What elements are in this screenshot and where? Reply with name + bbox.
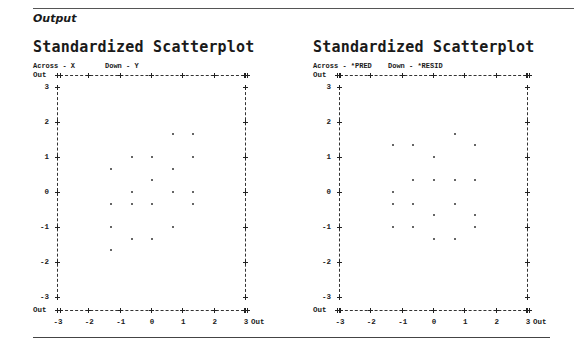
data-point [392, 226, 394, 228]
y-tick-label: 1 [313, 153, 331, 161]
x-tick-mark [462, 73, 467, 78]
data-point [433, 156, 435, 158]
x-tick-label: 0 [428, 318, 440, 326]
data-point [474, 179, 476, 181]
y-tick-label: -3 [313, 293, 331, 301]
data-point [474, 144, 476, 146]
data-point [433, 179, 435, 181]
x-tick-mark [400, 73, 405, 78]
y-tick-mark [337, 120, 342, 125]
out-label-top: Out [313, 71, 327, 79]
x-tick-mark [337, 308, 342, 313]
y-tick-mark [525, 225, 530, 230]
data-point [392, 191, 394, 193]
y-tick-label: -1 [313, 223, 331, 231]
y-tick-mark [525, 260, 530, 265]
data-point [474, 214, 476, 216]
scatterplot-pred-resid: Standardized Scatterplot Across - *PRED … [0, 0, 287, 342]
x-tick-label: -2 [365, 318, 377, 326]
x-tick-mark [431, 73, 436, 78]
x-tick-mark [431, 308, 436, 313]
y-tick-mark [525, 85, 530, 90]
data-point [454, 238, 456, 240]
y-tick-mark [337, 155, 342, 160]
x-tick-label: 2 [491, 318, 503, 326]
x-tick-label: 1 [459, 318, 471, 326]
y-tick-label: -2 [313, 258, 331, 266]
data-point [412, 203, 414, 205]
x-tick-mark [494, 308, 499, 313]
across-label: Across - *PRED [313, 62, 372, 70]
x-tick-label: -1 [397, 318, 409, 326]
x-tick-label: 3 [522, 318, 534, 326]
y-tick-label: 0 [313, 188, 331, 196]
y-tick-mark [525, 295, 530, 300]
y-tick-mark [525, 155, 530, 160]
y-tick-label: 2 [313, 118, 331, 126]
data-point [433, 238, 435, 240]
data-point [454, 179, 456, 181]
data-point [454, 203, 456, 205]
chart-title: Standardized Scatterplot [313, 38, 535, 56]
data-point [412, 226, 414, 228]
data-point [392, 203, 394, 205]
out-label-bottom: Out [313, 306, 327, 314]
data-point [433, 214, 435, 216]
x-tick-mark [368, 73, 373, 78]
data-point [474, 226, 476, 228]
data-point [392, 144, 394, 146]
y-tick-mark [337, 295, 342, 300]
down-label: Down - *RESID [388, 62, 443, 70]
y-tick-mark [337, 260, 342, 265]
data-point [412, 144, 414, 146]
out-label-right: Out [533, 318, 547, 326]
x-tick-mark [525, 73, 530, 78]
x-tick-mark [400, 308, 405, 313]
y-tick-mark [337, 225, 342, 230]
y-tick-label: 3 [313, 83, 331, 91]
data-point [454, 133, 456, 135]
x-tick-mark [462, 308, 467, 313]
x-tick-mark [368, 308, 373, 313]
y-tick-mark [525, 120, 530, 125]
x-tick-label: -3 [334, 318, 346, 326]
x-tick-mark [525, 308, 530, 313]
data-point [412, 179, 414, 181]
y-tick-mark [525, 190, 530, 195]
y-tick-mark [337, 190, 342, 195]
bottom-rule [33, 337, 550, 338]
x-tick-mark [337, 73, 342, 78]
y-tick-mark [337, 85, 342, 90]
x-tick-mark [494, 73, 499, 78]
